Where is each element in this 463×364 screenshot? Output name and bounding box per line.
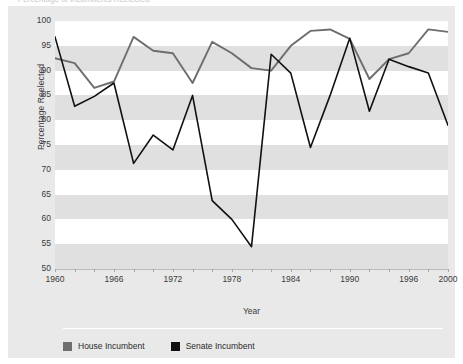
y-tick-label: 55 — [25, 238, 51, 248]
x-tick-label: 1984 — [271, 274, 311, 284]
x-tick-mark — [114, 269, 115, 272]
x-tick-mark — [153, 269, 154, 272]
legend-label: Senate Incumbent — [186, 341, 255, 351]
x-tick-mark — [271, 269, 272, 272]
x-tick-mark — [291, 269, 292, 272]
x-tick-mark — [212, 269, 213, 272]
x-tick-label: 1996 — [389, 274, 429, 284]
cropped-title-sliver: Percentage of Incumbents Reelected — [18, 0, 318, 4]
x-tick-mark — [330, 269, 331, 272]
x-tick-label: 1978 — [212, 274, 252, 284]
x-tick-mark — [448, 269, 449, 272]
chart-card: 50556065707580859095100 Percentage Reele… — [8, 6, 455, 358]
x-tick-mark — [232, 269, 233, 272]
chart-legend: House IncumbentSenate Incumbent — [63, 339, 255, 353]
x-tick-mark — [94, 269, 95, 272]
x-tick-mark — [428, 269, 429, 272]
x-tick-mark — [252, 269, 253, 272]
x-tick-mark — [369, 269, 370, 272]
legend-item-senate-incumbent[interactable]: Senate Incumbent — [171, 341, 255, 351]
plot-area — [55, 21, 448, 269]
y-tick-label: 50 — [25, 263, 51, 273]
x-tick-label: 1960 — [35, 274, 75, 284]
legend-label: House Incumbent — [78, 341, 145, 351]
x-tick-label: 2000 — [428, 274, 463, 284]
legend-swatch — [171, 342, 180, 351]
legend-divider — [63, 328, 443, 329]
x-tick-mark — [193, 269, 194, 272]
x-tick-mark — [409, 269, 410, 272]
x-tick-mark — [350, 269, 351, 272]
x-axis-tick-labels: 19601966197219781984199019962000 — [55, 274, 448, 288]
x-axis-label: Year — [55, 306, 448, 316]
legend-swatch — [63, 342, 72, 351]
chart-figure: Percentage of Incumbents Reelected 50556… — [0, 0, 463, 364]
x-tick-mark — [55, 269, 56, 272]
x-tick-mark — [389, 269, 390, 272]
legend-item-house-incumbent[interactable]: House Incumbent — [63, 341, 145, 351]
x-tick-mark — [173, 269, 174, 272]
y-tick-label: 65 — [25, 189, 51, 199]
y-axis-label: Percentage Reelected — [36, 27, 46, 187]
x-tick-mark — [310, 269, 311, 272]
x-tick-label: 1990 — [330, 274, 370, 284]
y-tick-label: 60 — [25, 213, 51, 223]
y-tick-label: 100 — [25, 15, 51, 25]
x-tick-label: 1966 — [94, 274, 134, 284]
x-tick-mark — [75, 269, 76, 272]
x-tick-label: 1972 — [153, 274, 193, 284]
plot-lines — [55, 21, 448, 269]
x-tick-mark — [134, 269, 135, 272]
